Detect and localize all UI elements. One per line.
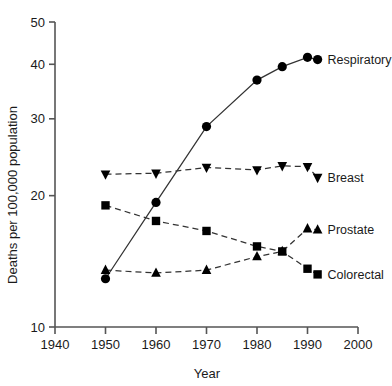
x-axis-tick-label: 1980 bbox=[243, 337, 272, 352]
data-point-circle-marker bbox=[303, 53, 312, 62]
data-point-square-marker bbox=[202, 227, 210, 235]
y-axis-tick-label: 30 bbox=[31, 111, 45, 126]
x-axis-tick-label: 1970 bbox=[192, 337, 221, 352]
data-point-circle-marker bbox=[252, 75, 261, 84]
data-point-square-marker bbox=[303, 265, 311, 273]
series-label-colorectal: Colorectal bbox=[328, 268, 384, 282]
y-axis-tick-label: 40 bbox=[31, 57, 45, 72]
data-point-square-marker bbox=[278, 247, 286, 255]
y-axis-tick-label: 50 bbox=[31, 15, 45, 30]
series-label-breast: Breast bbox=[328, 171, 365, 185]
data-point-circle-marker bbox=[101, 274, 110, 283]
chart-container: 1020304050 1940195019601970198019902000 … bbox=[0, 0, 392, 386]
series-label-prostate: Prostate bbox=[328, 223, 375, 237]
x-axis-tick-label: 1950 bbox=[91, 337, 120, 352]
data-point-circle-marker bbox=[278, 62, 287, 71]
y-axis-tick-label: 20 bbox=[31, 188, 45, 203]
data-point-circle-marker bbox=[313, 55, 322, 64]
x-axis-tick-label: 1960 bbox=[142, 337, 171, 352]
data-point-circle-marker bbox=[202, 122, 211, 131]
data-point-circle-marker bbox=[151, 198, 160, 207]
data-point-square-marker bbox=[253, 242, 261, 250]
y-axis-title: Deaths per 100,000 population bbox=[5, 106, 20, 284]
x-axis-tick-label: 1940 bbox=[41, 337, 70, 352]
data-point-square-marker bbox=[152, 217, 160, 225]
data-point-square-marker bbox=[101, 201, 109, 209]
x-axis-tick-label: 1990 bbox=[293, 337, 322, 352]
y-axis-tick-label: 10 bbox=[31, 320, 45, 335]
series-label-respiratory: Respiratory bbox=[328, 53, 392, 67]
x-axis-tick-label: 2000 bbox=[344, 337, 373, 352]
data-point-square-marker bbox=[313, 270, 321, 278]
x-axis-title: Year bbox=[194, 366, 221, 381]
mortality-trends-line-chart: 1020304050 1940195019601970198019902000 … bbox=[0, 0, 392, 386]
